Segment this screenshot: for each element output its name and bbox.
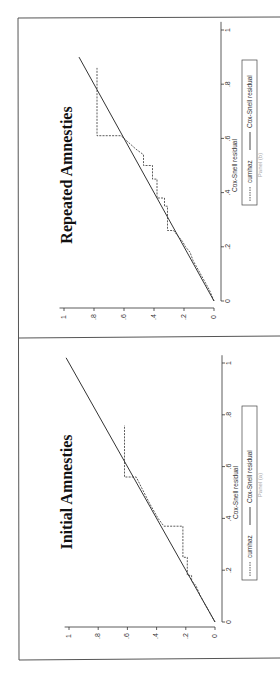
frame-left — [18, 18, 19, 660]
panel-caption: Panel (b) — [257, 153, 263, 177]
x-tick-label: 0 — [225, 620, 232, 624]
reference-line — [66, 358, 215, 622]
y-tick-label: .8 — [90, 314, 97, 320]
y-tick-label: .2 — [180, 314, 187, 320]
legend-label-cumhaz: cumhaz — [246, 160, 253, 183]
x-tick-label: 1 — [225, 361, 232, 365]
x-tick-label: 1 — [224, 28, 231, 32]
x-tick-label: .6 — [224, 135, 231, 141]
y-tick-label: .2 — [182, 633, 189, 639]
x-tick-label: .6 — [225, 464, 232, 470]
panel-initial-amnesties: Initial Amnesties0.2.4.6.81Cox-Snell res… — [58, 355, 263, 639]
x-tick-label: .2 — [224, 244, 231, 250]
y-tick-label: .8 — [94, 633, 101, 639]
cumhaz-line — [97, 68, 214, 301]
figure: Repeated Amnesties0.2.4.6.81Cox-Snell re… — [0, 0, 280, 674]
y-tick-label: 0 — [211, 634, 218, 638]
y-tick-label: 0 — [210, 315, 217, 319]
y-tick-label: 1 — [65, 634, 72, 638]
y-tick-label: 1 — [60, 315, 67, 319]
legend-label-coxsnell: Cox-Snell residual — [246, 75, 253, 128]
reference-line — [79, 57, 214, 301]
y-tick-label: .6 — [120, 314, 127, 320]
x-axis-title: Cox-Snell residual — [231, 139, 238, 192]
x-tick-label: .8 — [224, 81, 231, 87]
y-tick-label: .4 — [152, 633, 159, 639]
x-tick-label: 0 — [224, 299, 231, 303]
panel-caption: Panel (a) — [257, 473, 263, 497]
chart-title: Initial Amnesties — [58, 434, 75, 549]
x-tick-label: .4 — [224, 190, 231, 196]
x-tick-label: .2 — [225, 567, 232, 573]
y-tick-label: .6 — [123, 633, 130, 639]
x-axis-title: Cox-Snell residual — [232, 466, 239, 519]
x-tick-label: .8 — [225, 412, 232, 418]
legend-label-coxsnell: Cox-Snell residual — [246, 450, 253, 503]
y-tick-label: .4 — [150, 314, 157, 320]
panel-repeated-amnesties: Repeated Amnesties0.2.4.6.81Cox-Snell re… — [58, 22, 263, 320]
legend-label-cumhaz: cumhaz — [246, 535, 253, 558]
chart-title: Repeated Amnesties — [58, 106, 76, 243]
frame-bottom — [19, 658, 280, 660]
x-tick-label: .4 — [225, 515, 232, 521]
cumhaz-line — [125, 425, 216, 622]
frame-top — [18, 17, 280, 18]
panel-divider — [19, 336, 280, 338]
